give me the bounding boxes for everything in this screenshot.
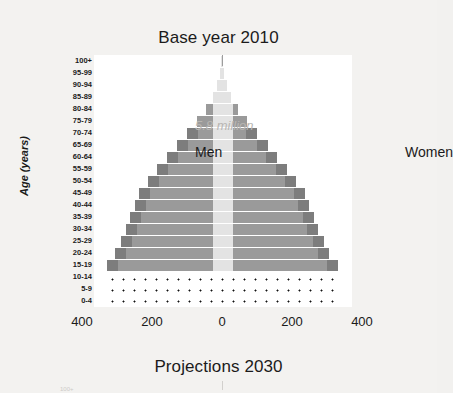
pyramid-row (94, 259, 352, 271)
bar-flank (121, 236, 132, 247)
pyramid-row (94, 67, 352, 79)
bar-flank (148, 176, 159, 187)
bar-flank (298, 200, 309, 211)
x-tick-0: 400 (57, 314, 107, 329)
bar-women-20-24 (222, 247, 329, 259)
bar-flank (126, 224, 137, 235)
y-tick-40-44: 40-44 (44, 201, 92, 209)
bar-men-45-49 (139, 187, 222, 199)
bar-men-25-29 (121, 235, 223, 247)
bar-flank (130, 212, 141, 223)
bar-flank (115, 248, 126, 259)
y-tick-70-74: 70-74 (44, 129, 92, 137)
pyramid-row (94, 55, 352, 67)
bar-flank (318, 248, 329, 259)
stippled-cohort-block (105, 271, 340, 307)
pyramid-row (94, 223, 352, 235)
x-tick-1: 200 (127, 314, 177, 329)
chart-bottom-title: Projections 2030 (0, 357, 437, 377)
x-tick-3: 200 (267, 314, 317, 329)
bar-women-65-69 (222, 139, 268, 151)
bar-women-50-54 (222, 175, 296, 187)
y-tick-65-69: 65-69 (44, 141, 92, 149)
pyramid-row (94, 199, 352, 211)
x-tick-4: 400 (337, 314, 387, 329)
bar-men-15-19 (107, 259, 223, 271)
pyramid-row (94, 151, 352, 163)
population-annotation: 5.8 million (195, 118, 254, 133)
y-tick-90-94: 90-94 (44, 81, 92, 89)
y-tick-45-49: 45-49 (44, 189, 92, 197)
bar-flank (257, 140, 268, 151)
bar-men-35-39 (130, 211, 222, 223)
bar-flank (327, 260, 338, 271)
pyramid-row (94, 187, 352, 199)
y-tick-35-39: 35-39 (44, 213, 92, 221)
pyramid-row (94, 79, 352, 91)
pyramid-row (94, 175, 352, 187)
bar-women-25-29 (222, 235, 324, 247)
y-tick-75-79: 75-79 (44, 117, 92, 125)
bar-flank (285, 176, 296, 187)
bar-flank (303, 212, 314, 223)
x-tick-2: 0 (197, 314, 247, 329)
y-tick-25-29: 25-29 (44, 237, 92, 245)
bar-men-50-54 (148, 175, 222, 187)
bar-flank (107, 260, 118, 271)
y-tick-30-34: 30-34 (44, 225, 92, 233)
y-tick-15-19: 15-19 (44, 261, 92, 269)
men-label: Men (195, 144, 222, 160)
y-tick-20-24: 20-24 (44, 249, 92, 257)
y-tick-5-9: 5-9 (44, 285, 92, 293)
y-tick-85-89: 85-89 (44, 93, 92, 101)
bar-women-15-19 (222, 259, 338, 271)
bar-men-40-44 (135, 199, 222, 211)
bar-flank (157, 164, 168, 175)
y-tick-55-59: 55-59 (44, 165, 92, 173)
bar-men-55-59 (157, 163, 222, 175)
bar-flank (276, 164, 287, 175)
bar-men-20-24 (115, 247, 222, 259)
bar-flank (135, 200, 146, 211)
bar-women-35-39 (222, 211, 314, 223)
bar-women-80-84 (222, 103, 238, 115)
y-tick-10-14: 10-14 (44, 273, 92, 281)
y-tick-100+: 100+ (44, 57, 92, 65)
next-chart-tick (222, 381, 223, 390)
y-axis-title: Age (years) (18, 126, 30, 206)
pyramid-spire (222, 55, 223, 66)
bar-men-80-84 (206, 103, 222, 115)
x-axis-tick-labels: 4002000200400 (0, 314, 437, 334)
y-tick-50-54: 50-54 (44, 177, 92, 185)
bar-women-45-49 (222, 187, 305, 199)
pyramid-row (94, 91, 352, 103)
bar-flank (139, 188, 150, 199)
bar-flank (294, 188, 305, 199)
bar-women-95-99 (222, 67, 224, 79)
women-label: Women (405, 144, 453, 160)
plot-area: 5.8 million Men Women (94, 55, 352, 307)
bar-flank (313, 236, 324, 247)
bar-women-40-44 (222, 199, 309, 211)
pyramid-row (94, 235, 352, 247)
y-tick-95-99: 95-99 (44, 69, 92, 77)
bar-flank (307, 224, 318, 235)
bar-men-85-89 (213, 91, 222, 103)
y-tick-80-84: 80-84 (44, 105, 92, 113)
y-axis-tick-labels: 100+95-9990-9485-8980-8475-7970-7465-696… (44, 55, 92, 307)
bar-women-55-59 (222, 163, 287, 175)
bar-flank (266, 152, 277, 163)
bar-women-85-89 (222, 91, 231, 103)
chart-top-title: Base year 2010 (0, 28, 437, 48)
bar-flank (167, 152, 178, 163)
pyramid-row (94, 247, 352, 259)
bar-men-30-34 (126, 223, 222, 235)
pyramid-row (94, 211, 352, 223)
next-chart-hint: 100+ (60, 386, 74, 392)
bar-flank (177, 140, 188, 151)
y-tick-60-64: 60-64 (44, 153, 92, 161)
pyramid-row (94, 103, 352, 115)
y-tick-0-4: 0-4 (44, 297, 92, 305)
bar-women-30-34 (222, 223, 318, 235)
